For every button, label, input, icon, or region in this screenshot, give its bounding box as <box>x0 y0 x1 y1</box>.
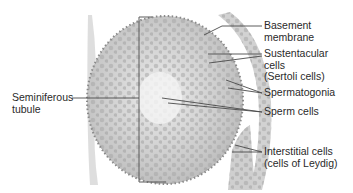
diagram-figure: Basement membrane Sustentacular cells (S… <box>0 0 353 193</box>
label-interstitial-cells: Interstitial cells (cells of Leydig) <box>264 146 338 169</box>
label-seminiferous-tubule: Seminiferous tubule <box>12 92 73 115</box>
label-basement-membrane: Basement membrane <box>264 20 314 43</box>
lumen <box>138 72 182 124</box>
label-spermatogonia: Spermatogonia <box>264 87 335 99</box>
label-sustentacular-cells: Sustentacular cells (Sertoli cells) <box>264 48 328 83</box>
label-sperm-cells: Sperm cells <box>264 106 319 118</box>
